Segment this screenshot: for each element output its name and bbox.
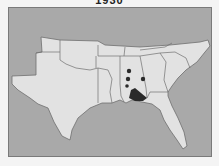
land-mass xyxy=(12,37,210,149)
occurrence-dot xyxy=(126,77,130,81)
occurrence-dot xyxy=(141,77,145,81)
occurrence-dot xyxy=(127,69,131,73)
occurrence-dot xyxy=(125,84,129,88)
distribution-map xyxy=(0,0,219,166)
